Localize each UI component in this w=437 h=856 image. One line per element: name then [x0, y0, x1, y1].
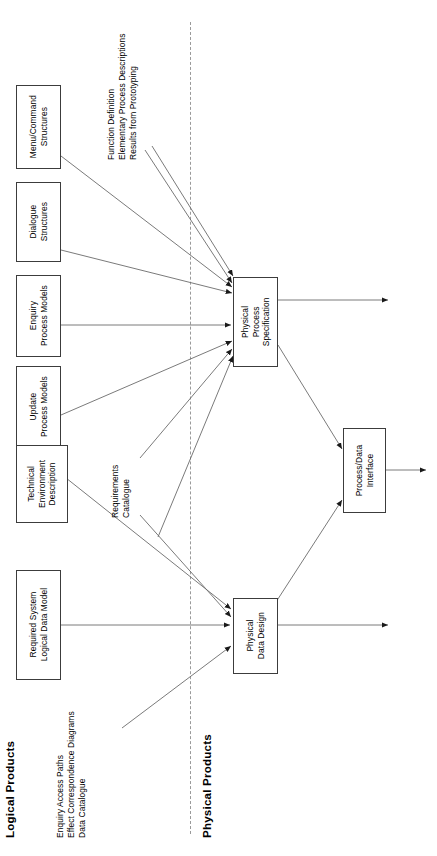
heading-logical-products: Logical Products	[3, 741, 16, 838]
node-label: Required SystemLogical Data Model	[28, 588, 49, 662]
annotation-line: Catalogue	[121, 465, 132, 518]
node-technical-environment-description[interactable]: TechnicalEnvironmentDescription	[16, 445, 68, 523]
node-update-process-models[interactable]: UpdateProcess Models	[16, 366, 61, 448]
edge-lower-to-pps	[158, 356, 233, 537]
node-process-data-interface[interactable]: Process/DataInterface	[343, 428, 386, 513]
annotation-line: Data Catalogue	[77, 711, 88, 838]
node-label: EnquiryProcess Models	[28, 286, 49, 347]
edge-annot-top-b-to-pps	[152, 146, 233, 276]
node-label: PhysicalProcessSpecification	[240, 298, 272, 347]
annotation-line: Effect Correspondence Diagrams	[66, 711, 77, 838]
node-physical-process-specification[interactable]: PhysicalProcessSpecification	[233, 277, 278, 367]
edge-menu-to-pps	[61, 156, 232, 287]
edge-pds-to-pdi	[276, 500, 342, 602]
edge-reqcat-to-pds	[140, 515, 231, 617]
edge-bottom-annot-to-pds	[122, 646, 231, 728]
annotation-line: Enquiry Access Paths	[55, 711, 66, 838]
diagram-canvas: Menu/CommandStructures DialogueStructure…	[0, 0, 437, 856]
node-label: UpdateProcess Models	[28, 377, 49, 438]
node-dialogue-structures[interactable]: DialogueStructures	[16, 182, 61, 262]
edge-pps-to-pdi	[278, 345, 342, 449]
edge-dialogue-to-pps	[61, 250, 232, 293]
annotation-line: Results from Prototyping	[128, 34, 139, 160]
annotation-line: Elementary Process Descriptions	[117, 34, 128, 160]
logical-physical-divider	[190, 22, 191, 834]
annotation-top-products: Function Definition Elementary Process D…	[106, 34, 138, 160]
annotation-line: Requirements	[110, 465, 121, 518]
node-label: PhysicalData Design	[245, 612, 266, 659]
heading-physical-products: Physical Products	[200, 734, 213, 838]
node-label: Menu/CommandStructures	[28, 95, 49, 158]
annotation-bottom-products: Enquiry Access Paths Effect Corresponden…	[55, 711, 87, 838]
annotation-line: Function Definition	[106, 34, 117, 160]
edge-techenv-to-pds	[61, 474, 231, 609]
node-physical-data-design[interactable]: PhysicalData Design	[233, 598, 278, 674]
node-required-system-logical-data-model[interactable]: Required SystemLogical Data Model	[16, 570, 61, 680]
edge-update-to-pps	[61, 341, 232, 415]
edge-annot-top-a-to-pps	[145, 150, 232, 283]
node-label: Process/DataInterface	[354, 445, 375, 496]
node-enquiry-process-models[interactable]: EnquiryProcess Models	[16, 275, 61, 357]
annotation-requirements-catalogue: Requirements Catalogue	[110, 465, 132, 518]
node-label: TechnicalEnvironmentDescription	[26, 460, 58, 508]
node-menu-command-structures[interactable]: Menu/CommandStructures	[16, 85, 61, 169]
edge-req-cat-to-pps	[140, 349, 232, 458]
node-label: DialogueStructures	[28, 202, 49, 241]
